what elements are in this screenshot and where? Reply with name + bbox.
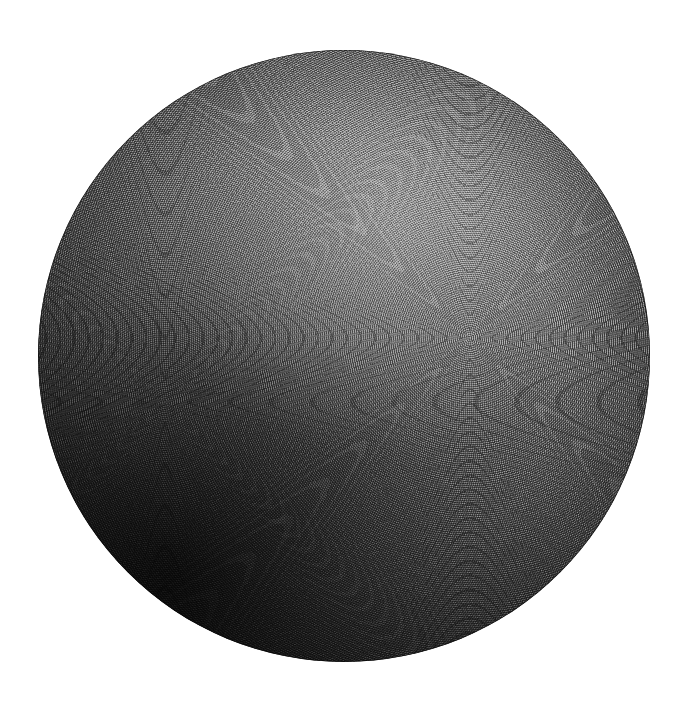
sphere	[38, 50, 650, 662]
film-grain-overlay	[38, 50, 650, 662]
grain-svg	[38, 50, 650, 662]
image-canvas	[0, 0, 688, 719]
